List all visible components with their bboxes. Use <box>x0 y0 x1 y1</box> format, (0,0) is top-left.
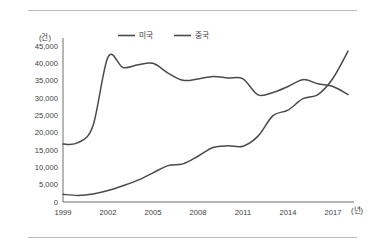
x-tick-label: 1999 <box>55 208 72 217</box>
x-axis-tick-labels: 1999200220052008201120142017 <box>55 208 342 217</box>
y-tick-label: 35,000 <box>35 76 58 85</box>
chart-legend: 미국중국 <box>118 31 209 40</box>
line-chart: 05,00010,00015,00020,00025,00030,00035,0… <box>0 14 385 234</box>
y-tick-label: 5,000 <box>39 180 58 189</box>
bottom-divider-rule <box>28 237 357 238</box>
y-tick-label: 45,000 <box>35 42 58 51</box>
y-tick-label: 20,000 <box>35 128 58 137</box>
x-tick-label: 2005 <box>145 208 162 217</box>
x-tick-label: 2017 <box>325 208 342 217</box>
y-tick-label: 15,000 <box>35 146 58 155</box>
series-line-중국 <box>63 51 348 195</box>
y-tick-label: 30,000 <box>35 94 58 103</box>
x-tick-label: 2014 <box>280 208 297 217</box>
y-tick-label: 0 <box>54 198 58 207</box>
chart-svg: 05,00010,00015,00020,00025,00030,00035,0… <box>0 14 385 234</box>
x-axis-unit-label: (년) <box>351 205 364 215</box>
y-tick-label: 25,000 <box>35 111 58 120</box>
y-tick-label: 10,000 <box>35 163 58 172</box>
legend-label-중국: 중국 <box>195 31 209 40</box>
y-tick-label: 40,000 <box>35 59 58 68</box>
x-tick-label: 2008 <box>190 208 207 217</box>
top-divider-rule <box>28 10 357 11</box>
series-line-미국 <box>63 54 348 144</box>
y-axis-unit-label: (건) <box>39 32 52 42</box>
x-tick-label: 2011 <box>235 208 251 217</box>
legend-label-미국: 미국 <box>139 31 153 40</box>
chart-figure: 05,00010,00015,00020,00025,00030,00035,0… <box>0 0 385 251</box>
y-axis-tick-labels: 05,00010,00015,00020,00025,00030,00035,0… <box>35 42 58 207</box>
x-tick-label: 2002 <box>100 208 117 217</box>
series-lines <box>63 51 348 195</box>
